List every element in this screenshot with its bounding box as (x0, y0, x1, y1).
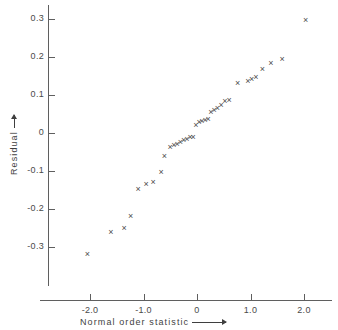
data-point: × (278, 55, 287, 64)
y-axis-title: Residual (9, 115, 19, 175)
data-point: × (106, 228, 115, 237)
data-point: × (157, 168, 166, 177)
data-point: × (126, 212, 135, 221)
x-tick-mark (144, 294, 145, 300)
normal-probability-plot-figure: 0.30.20.10-0.1-0.2-0.3 -2.0-1.001.02.0 ×… (0, 0, 338, 330)
data-point: × (225, 96, 234, 105)
y-tick-mark (49, 19, 55, 20)
data-point: × (251, 73, 260, 82)
x-tick-label: 2.0 (284, 305, 324, 315)
x-tick-label: 0 (177, 305, 217, 315)
x-axis-title-label: Normal order statistic (80, 317, 189, 327)
x-tick-mark (90, 294, 91, 300)
data-point: × (149, 178, 158, 187)
x-axis-line (40, 300, 332, 301)
x-tick-label: -1.0 (124, 305, 164, 315)
y-tick-mark (49, 171, 55, 172)
y-tick-mark (49, 247, 55, 248)
plot-area: 0.30.20.10-0.1-0.2-0.3 -2.0-1.001.02.0 ×… (0, 0, 338, 330)
y-tick-label: -0.2 (0, 203, 44, 213)
y-tick-label: 0.2 (0, 51, 44, 61)
x-tick-label: 1.0 (231, 305, 271, 315)
y-tick-label: -0.1 (0, 165, 44, 175)
data-point: × (83, 250, 92, 259)
y-axis-title-label: Residual (9, 131, 19, 175)
y-tick-mark (49, 133, 55, 134)
x-axis-arrow-icon (192, 322, 226, 323)
x-tick-label: -2.0 (70, 305, 110, 315)
y-tick-mark (49, 209, 55, 210)
data-point: × (160, 152, 169, 161)
x-tick-mark (251, 294, 252, 300)
x-axis-title: Normal order statistic (80, 317, 226, 327)
data-point: × (189, 133, 198, 142)
x-tick-mark (304, 294, 305, 300)
data-point: × (233, 79, 242, 88)
y-tick-mark (49, 57, 55, 58)
x-tick-mark (197, 294, 198, 300)
data-point: × (266, 59, 275, 68)
y-tick-label: -0.3 (0, 241, 44, 251)
data-point: × (301, 16, 310, 25)
data-point: × (120, 224, 129, 233)
y-axis-line (48, 5, 49, 286)
y-axis-arrow-icon (14, 115, 15, 128)
y-tick-label: 0 (0, 127, 44, 137)
y-tick-mark (49, 95, 55, 96)
y-tick-label: 0.1 (0, 89, 44, 99)
y-tick-label: 0.3 (0, 13, 44, 23)
